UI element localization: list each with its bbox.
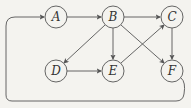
node-d-label: D — [45, 60, 67, 82]
node-e-label: E — [102, 60, 124, 82]
node-a-label: A — [45, 6, 67, 28]
directed-graph: A B C D E F — [0, 0, 191, 108]
edge-f-a — [6, 17, 185, 101]
node-b-label: B — [102, 6, 124, 28]
node-f-label: F — [161, 60, 183, 82]
node-c-label: C — [161, 6, 183, 28]
edge-b-d — [64, 25, 105, 63]
